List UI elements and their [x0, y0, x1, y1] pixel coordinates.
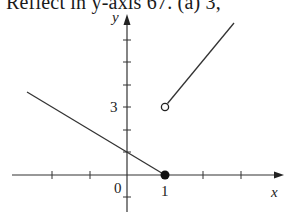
origin-label: 0 — [114, 180, 122, 196]
x-axis-label: x — [270, 184, 278, 200]
open-point-icon — [161, 103, 168, 110]
right-line-segment — [168, 23, 235, 104]
x-axis-arrow-icon — [274, 172, 284, 179]
y-tick-label-3: 3 — [110, 99, 118, 115]
y-axis-arrow-icon — [124, 14, 131, 25]
x-tick-label-1: 1 — [161, 183, 169, 199]
x-axis — [12, 171, 284, 179]
closed-point-icon — [161, 171, 170, 180]
y-axis — [123, 14, 131, 212]
graph: y x 0 1 3 — [0, 0, 288, 212]
y-axis-label: y — [110, 9, 119, 25]
left-line-segment — [27, 92, 165, 175]
